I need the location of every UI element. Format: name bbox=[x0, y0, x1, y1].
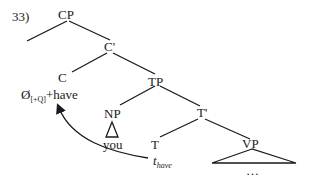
null-symbol: Ø bbox=[21, 87, 30, 102]
node-tp: TP bbox=[148, 75, 163, 88]
node-c-bar: C' bbox=[104, 40, 115, 53]
c-content: Ø[+Q]+have bbox=[21, 88, 78, 106]
np-content-you: you bbox=[103, 138, 123, 151]
node-vp: VP bbox=[242, 137, 259, 150]
np-triangle bbox=[106, 122, 118, 137]
node-np: NP bbox=[104, 107, 121, 120]
branch-cbar-tp bbox=[113, 53, 155, 74]
example-number: 33) bbox=[12, 10, 29, 23]
node-cp: CP bbox=[58, 8, 74, 21]
node-c: C bbox=[58, 71, 67, 84]
branch-cp-left bbox=[27, 21, 67, 41]
vp-triangle bbox=[212, 149, 296, 163]
node-t-bar: T' bbox=[197, 106, 207, 119]
branch-tbar-t bbox=[160, 119, 198, 137]
node-t: T bbox=[151, 138, 159, 151]
trace-subscript: have bbox=[157, 161, 172, 170]
vp-content-ellipsis: … bbox=[246, 164, 259, 177]
branch-cp-cbar bbox=[69, 21, 110, 40]
have-word: +have bbox=[46, 87, 78, 102]
branch-tp-tbar bbox=[160, 86, 200, 106]
q-feature: [+Q] bbox=[30, 95, 46, 104]
branch-cbar-c bbox=[72, 53, 107, 72]
trace-have: thave bbox=[153, 154, 172, 172]
